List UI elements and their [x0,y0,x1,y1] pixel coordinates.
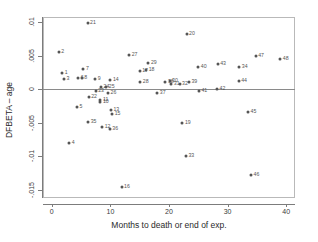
data-point [197,90,200,93]
plot-area: 1234567891011121314151617181920212223242… [43,17,295,198]
y-tick-label: .005 [28,49,35,63]
data-point-label: 14 [113,77,119,82]
data-point [109,78,112,81]
data-point [216,63,219,66]
data-point [80,77,83,80]
data-point-label: 40 [201,65,207,70]
data-point [238,65,241,68]
data-point-label: 9 [98,76,101,81]
data-point [145,69,148,72]
data-point [100,85,103,88]
data-point [216,87,219,90]
data-point-label: 19 [185,120,191,125]
data-point [181,121,184,124]
data-point [94,89,97,92]
data-point [61,72,64,75]
data-point [254,54,257,57]
data-point [139,81,142,84]
data-point [237,80,240,83]
data-point-label: 37 [160,91,166,96]
data-point [178,83,181,86]
data-point-label: 34 [242,64,248,69]
x-tick [52,204,53,207]
data-point-label: 21 [90,20,96,25]
data-point-label: 22 [91,94,97,99]
y-tick-label: -.015 [28,182,35,198]
data-point [68,142,71,145]
data-point-label: 20 [189,32,195,37]
data-point-label: 5 [79,105,82,110]
data-point [120,185,123,188]
x-tick [169,204,170,207]
data-point-label: 43 [220,62,226,67]
x-axis-label: Months to death or end of exp. [43,220,295,230]
data-point [99,98,102,101]
y-tick [38,56,42,57]
data-point-label: 42 [220,86,226,91]
y-tick [38,123,42,124]
y-tick-label: -.01 [28,150,35,162]
data-point [108,127,111,130]
data-point-label: 27 [132,53,138,58]
data-point [279,57,282,60]
zero-reference-line [43,89,295,90]
data-point [94,77,97,80]
x-tick [286,204,287,207]
data-point-label: 4 [72,140,75,145]
data-point [156,92,159,95]
x-tick-label: 40 [282,208,290,215]
data-point [63,78,66,81]
x-tick-label: 20 [165,208,173,215]
data-point-label: 39 [191,79,197,84]
data-point [147,61,150,64]
y-axis-line [42,17,43,198]
data-point-label: 33 [188,153,194,158]
x-tick [228,204,229,207]
data-point [128,54,131,57]
y-tick [38,190,42,191]
data-point-label: 38 [168,79,174,84]
y-axis-label: DFBETA – age [4,82,14,138]
x-tick-label: 30 [224,208,232,215]
data-point-label: 26 [111,90,117,95]
data-point [164,81,167,84]
data-point-label: 28 [143,79,149,84]
data-point [105,86,108,89]
data-point [247,111,250,114]
data-point [87,95,90,98]
data-point [86,21,89,24]
scatter-plot-figure: 1234567891011121314151617181920212223242… [0,0,318,242]
data-point [87,120,90,123]
y-tick [38,156,42,157]
data-point-label: 29 [151,60,157,65]
x-tick [110,204,111,207]
data-point-label: 2 [61,49,64,54]
data-point [57,50,60,53]
x-tick-label: 10 [106,208,114,215]
data-point [107,92,110,95]
y-tick-label: 0 [28,87,35,91]
data-point [82,68,85,71]
data-point-label: 45 [251,110,257,115]
y-tick-label: -.005 [28,115,35,131]
data-point-label: 3 [67,77,70,82]
data-point [187,80,190,83]
data-point [197,66,200,69]
x-tick-label: 0 [50,208,54,215]
data-point [184,155,187,158]
data-point-label: 47 [258,53,264,58]
data-point-label: 41 [201,88,207,93]
data-point-label: 11 [103,97,108,102]
data-point [138,69,141,72]
data-point-label: 18 [149,68,155,73]
data-point [101,125,104,128]
data-point-label: 44 [241,79,247,84]
data-point [75,106,78,109]
y-tick [38,89,42,90]
data-point [111,112,114,115]
data-point-label: 35 [91,119,97,124]
data-point-label: 15 [115,111,121,116]
data-point-label: 36 [112,126,118,131]
data-point [250,173,253,176]
data-point-label: 48 [283,56,289,61]
